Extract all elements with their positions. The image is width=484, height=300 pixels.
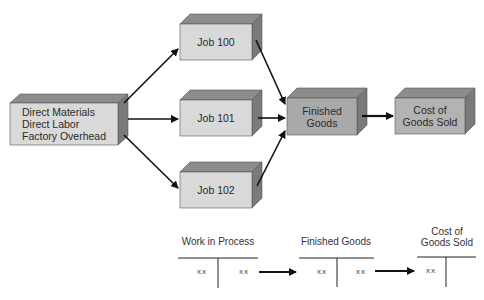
fg-debit-entry: xx xyxy=(317,267,327,276)
factory-overhead-text: Factory Overhead xyxy=(22,130,106,142)
cogs-label: Cost of Goods Sold xyxy=(395,98,465,134)
cogs-line-1: Cost of xyxy=(403,104,458,116)
arrow-source-to-job100 xyxy=(124,49,178,103)
direct-materials-text: Direct Materials xyxy=(22,106,106,118)
t-account-wip-title: Work in Process xyxy=(170,236,266,247)
fg-credit-entry: xx xyxy=(356,267,366,276)
t-account-cogs-title: Cost of Goods Sold xyxy=(416,226,478,248)
cogs-line-2: Goods Sold xyxy=(403,116,458,128)
arrow-source-to-job102 xyxy=(124,135,178,188)
job-100-label: Job 100 xyxy=(180,24,252,60)
arrow-job102-to-finished xyxy=(257,131,285,186)
cogs-debit-entry: xx xyxy=(426,266,436,275)
finished-goods-label: Finished Goods xyxy=(287,98,357,135)
wip-debit-entry: xx xyxy=(197,267,207,276)
t-account-cogs-title-line-1: Cost of xyxy=(416,226,478,237)
t-account-cogs-title-line-2: Goods Sold xyxy=(416,237,478,248)
finished-goods-line-2: Goods xyxy=(302,117,342,129)
job-102-label: Job 102 xyxy=(180,172,252,208)
direct-labor-text: Direct Labor xyxy=(22,118,106,130)
t-account-fg-title: Finished Goods xyxy=(290,236,382,247)
finished-goods-line-1: Finished xyxy=(302,105,342,117)
wip-credit-entry: xx xyxy=(239,267,249,276)
job-101-label: Job 101 xyxy=(180,100,252,136)
source-cost-box-label: Direct Materials Direct Labor Factory Ov… xyxy=(22,103,118,145)
